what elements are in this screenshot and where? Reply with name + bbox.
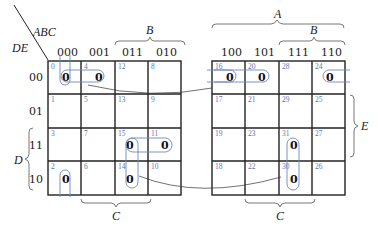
svg-text:18: 18 [215,162,223,171]
var-c-left: C [112,209,121,223]
svg-text:30: 30 [282,162,290,171]
svg-text:11: 11 [151,129,158,138]
svg-text:7: 7 [84,129,88,138]
svg-text:0: 0 [126,173,134,186]
svg-text:0: 0 [62,173,70,186]
svg-text:3: 3 [51,129,55,138]
brace-b-right [279,37,345,45]
col-label-001: 001 [89,46,110,59]
svg-text:2: 2 [51,162,55,171]
svg-text:31: 31 [282,129,290,138]
svg-text:24: 24 [315,62,323,71]
col-label-010: 010 [156,46,177,59]
svg-text:9: 9 [151,95,155,104]
col-label-110: 110 [321,46,342,59]
svg-text:1: 1 [51,95,55,104]
row-label-01: 01 [29,105,43,118]
brace-a [212,20,344,28]
connector-curve-top [88,85,212,93]
svg-text:8: 8 [151,62,155,71]
var-a: A [273,7,282,21]
svg-text:27: 27 [315,129,323,138]
col-label-101: 101 [254,46,275,59]
svg-text:0: 0 [161,139,169,152]
var-d: D [13,153,23,167]
svg-text:0: 0 [290,173,298,186]
brace-e [350,95,358,157]
svg-text:21: 21 [248,95,256,104]
svg-text:26: 26 [315,162,323,171]
svg-text:29: 29 [282,95,290,104]
svg-text:12: 12 [118,62,126,71]
var-b-right: B [310,23,318,37]
row-label-11: 11 [29,139,43,152]
row-vars-label: DE [11,41,29,55]
svg-text:6: 6 [84,162,88,171]
row-label-10: 10 [29,173,43,186]
brace-b-left [115,37,185,45]
var-e: E [360,119,369,133]
svg-text:25: 25 [315,95,323,104]
col-label-100: 100 [221,46,242,59]
connector-curve-bottom [139,176,281,188]
var-c-right: C [276,209,285,223]
row-label-00: 00 [29,71,43,84]
svg-text:15: 15 [118,129,126,138]
col-label-111: 111 [288,46,309,59]
var-b-left: B [146,23,154,37]
svg-text:14: 14 [118,162,126,171]
brace-c-right [245,199,315,207]
svg-text:22: 22 [248,162,256,171]
svg-text:19: 19 [215,129,223,138]
svg-text:17: 17 [215,95,223,104]
col-label-011: 011 [122,46,143,59]
brace-c-left [81,199,151,207]
svg-text:0: 0 [51,62,55,71]
svg-text:10: 10 [151,162,159,171]
left-grouping-loops [60,55,172,197]
svg-text:23: 23 [248,129,256,138]
col-vars-label: ABC [32,25,57,39]
svg-text:13: 13 [118,95,126,104]
svg-text:28: 28 [282,62,290,71]
svg-text:5: 5 [84,95,88,104]
svg-text:0: 0 [290,139,298,152]
karnaugh-map-diagram: ABC DE 000 001 011 010 100 101 111 110 0… [0,0,378,231]
